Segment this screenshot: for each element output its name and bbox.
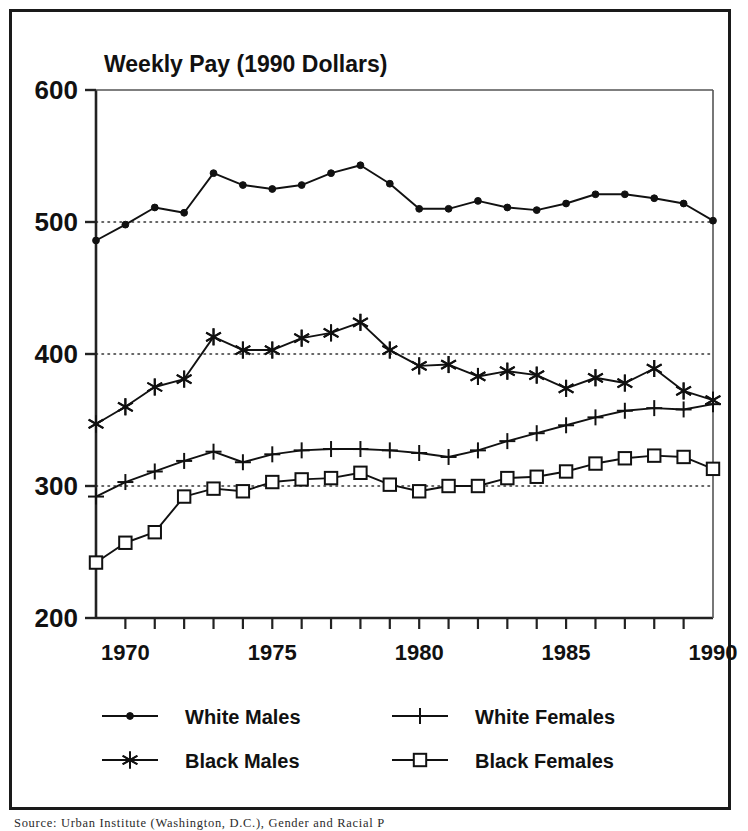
marker-dot: [328, 170, 335, 177]
marker-square: [207, 482, 219, 494]
marker-square: [677, 451, 689, 463]
x-axis: 19701975198019851990: [101, 618, 738, 665]
marker-square: [413, 485, 425, 497]
x-tick-label: 1985: [542, 640, 591, 665]
x-tick-label: 1975: [248, 640, 297, 665]
marker-dot: [445, 205, 452, 212]
legend-label: Black Males: [185, 750, 300, 772]
marker-dot: [533, 207, 540, 214]
marker-dot: [298, 182, 305, 189]
marker-square: [472, 480, 484, 492]
marker-asterisk: [147, 379, 162, 396]
y-tick-label: 300: [35, 471, 78, 501]
marker-dot: [127, 713, 134, 720]
chart-title: Weekly Pay (1990 Dollars): [104, 51, 387, 77]
marker-square: [414, 754, 426, 766]
y-axis: 200300400500600: [35, 75, 96, 633]
series-line: [96, 404, 713, 496]
marker-square: [178, 490, 190, 502]
marker-square: [119, 537, 131, 549]
legend-label: Black Females: [475, 750, 614, 772]
marker-asterisk: [647, 360, 662, 377]
marker-square: [295, 473, 307, 485]
marker-square: [589, 457, 601, 469]
marker-dot: [563, 200, 570, 207]
marker-dot: [151, 204, 158, 211]
marker-square: [619, 452, 631, 464]
legend-item-black-females[interactable]: Black Females: [392, 750, 614, 772]
marker-dot: [93, 237, 100, 244]
x-tick-label: 1980: [395, 640, 444, 665]
marker-square: [384, 478, 396, 490]
marker-dot: [122, 221, 129, 228]
marker-square: [531, 471, 543, 483]
marker-square: [501, 472, 513, 484]
marker-dot: [240, 182, 247, 189]
marker-square: [354, 467, 366, 479]
marker-dot: [416, 205, 423, 212]
marker-dot: [651, 195, 658, 202]
marker-dot: [621, 191, 628, 198]
legend-item-black-males[interactable]: Black Males: [102, 750, 300, 772]
marker-square: [237, 485, 249, 497]
y-tick-label: 400: [35, 339, 78, 369]
marker-asterisk: [118, 398, 133, 415]
legend-item-white-females[interactable]: White Females: [392, 706, 615, 728]
y-tick-label: 500: [35, 207, 78, 237]
marker-asterisk: [89, 415, 104, 432]
series-line: [96, 165, 713, 240]
marker-dot: [680, 200, 687, 207]
series-line: [96, 456, 713, 563]
marker-square: [707, 463, 719, 475]
source-footnote: Source: Urban Institute (Washington, D.C…: [14, 816, 740, 831]
marker-dot: [210, 170, 217, 177]
marker-asterisk: [559, 380, 574, 397]
marker-square: [266, 476, 278, 488]
legend-item-white-males[interactable]: White Males: [102, 706, 301, 728]
marker-dot: [269, 186, 276, 193]
series-line: [96, 322, 713, 424]
x-tick-label: 1990: [689, 640, 738, 665]
marker-dot: [181, 209, 188, 216]
marker-square: [442, 480, 454, 492]
marker-dot: [504, 204, 511, 211]
plot-frame: [96, 90, 713, 618]
marker-asterisk: [676, 382, 691, 399]
marker-square: [149, 526, 161, 538]
gridlines: [96, 222, 713, 486]
marker-square: [648, 449, 660, 461]
marker-square: [325, 472, 337, 484]
marker-square: [90, 556, 102, 568]
marker-dot: [357, 162, 364, 169]
marker-square: [560, 465, 572, 477]
marker-dot: [592, 191, 599, 198]
x-tick-label: 1970: [101, 640, 150, 665]
series-white-males: [93, 162, 717, 244]
legend-label: White Males: [185, 706, 301, 728]
marker-dot: [475, 197, 482, 204]
y-tick-label: 200: [35, 603, 78, 633]
legend: White MalesWhite FemalesBlack MalesBlack…: [102, 706, 615, 772]
legend-label: White Females: [475, 706, 615, 728]
marker-dot: [386, 180, 393, 187]
marker-dot: [710, 217, 717, 224]
y-tick-label: 600: [35, 75, 78, 105]
